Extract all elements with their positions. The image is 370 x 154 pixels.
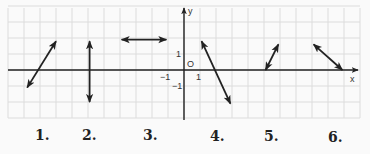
segment-label-1: 1. <box>35 127 50 143</box>
segments <box>27 40 342 104</box>
y-tick-neg1-label: −1 <box>172 81 182 91</box>
axes <box>8 8 358 120</box>
coordinate-plane <box>0 0 370 154</box>
line-segment-5 <box>266 44 279 70</box>
line-segment-1 <box>27 41 56 87</box>
segment-label-3: 3. <box>143 127 158 143</box>
segment-label-5: 5. <box>264 128 279 144</box>
y-axis-label: y <box>188 6 193 16</box>
x-tick-1-label: 1 <box>196 72 201 82</box>
y-tick-1-label: 1 <box>176 49 181 59</box>
segment-label-2: 2. <box>82 127 97 143</box>
x-tick-neg1-label: −1 <box>160 72 170 82</box>
x-axis-label: x <box>350 74 355 84</box>
origin-label: O <box>187 59 194 69</box>
segment-label-6: 6. <box>328 129 343 145</box>
segment-label-4: 4. <box>210 128 225 144</box>
